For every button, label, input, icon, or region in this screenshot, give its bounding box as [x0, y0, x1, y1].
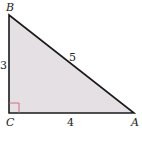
- triangle-shape: [9, 15, 134, 113]
- side-label-ca: 4: [67, 116, 74, 129]
- vertex-label-b: B: [5, 1, 14, 14]
- vertex-label-c: C: [6, 116, 15, 129]
- side-label-ab: 5: [69, 51, 76, 64]
- side-label-bc: 3: [0, 59, 7, 72]
- triangle-diagram: B C A 3 5 4: [0, 0, 142, 141]
- vertex-label-a: A: [130, 116, 139, 129]
